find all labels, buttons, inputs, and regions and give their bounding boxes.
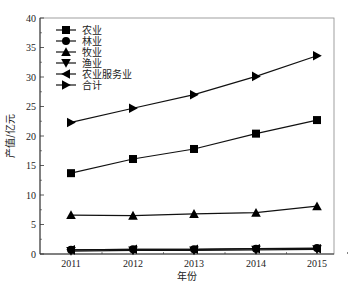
axes: 051015202530354020112012201320142015 (26, 13, 348, 270)
square-marker-icon (252, 130, 260, 138)
circle-marker-icon (62, 37, 70, 45)
series-triangle-right (67, 51, 322, 127)
y-tick-label: 5 (31, 219, 36, 230)
legend-item: 农业 (56, 24, 102, 36)
y-tick-label: 30 (26, 72, 36, 83)
x-tick-label: 2013 (184, 258, 204, 269)
y-tick-label: 20 (26, 131, 36, 142)
x-tick-label: 2015 (307, 258, 327, 269)
x-tick-label: 2012 (123, 258, 143, 269)
legend-label: 牧业 (82, 46, 102, 58)
legend-item: 农业服务业 (56, 68, 132, 80)
legend-label: 农业服务业 (82, 68, 132, 80)
triangle-left-marker-icon (61, 69, 70, 79)
square-marker-icon (62, 26, 70, 34)
square-marker-icon (313, 116, 321, 124)
triangle-right-marker-icon (313, 51, 322, 61)
y-tick-label: 0 (31, 249, 36, 260)
legend-label: 林业 (82, 35, 102, 47)
line-chart: 051015202530354020112012201320142015 农业林… (0, 0, 361, 291)
x-tick-label: 2011 (61, 258, 81, 269)
y-axis-title: 产值/亿元 (4, 114, 16, 157)
legend-item: 渔业 (56, 58, 102, 69)
series-group (66, 51, 322, 256)
y-tick-label: 25 (26, 101, 36, 112)
triangle-right-marker-icon (129, 103, 138, 113)
y-tick-label: 40 (26, 13, 36, 24)
legend-label: 渔业 (82, 58, 102, 69)
y-tick-label: 15 (26, 160, 36, 171)
y-tick-label: 10 (26, 190, 36, 201)
legend-item: 合计 (56, 79, 102, 91)
series-line (71, 56, 317, 123)
legend-label: 农业 (82, 24, 102, 36)
triangle-right-marker-icon (252, 72, 261, 82)
triangle-right-marker-icon (67, 118, 76, 128)
legend-label: 合计 (82, 79, 102, 91)
x-axis-title: 年份 (177, 270, 197, 282)
x-tick-label: 2014 (246, 258, 266, 269)
triangle-up-marker-icon (312, 201, 322, 210)
y-tick-label: 35 (26, 42, 36, 53)
series-square (67, 116, 321, 177)
legend: 农业林业牧业渔业农业服务业合计 (56, 24, 132, 91)
square-marker-icon (190, 145, 198, 153)
square-marker-icon (67, 169, 75, 177)
triangle-right-marker-icon (190, 90, 199, 100)
triangle-right-marker-icon (62, 80, 71, 90)
square-marker-icon (129, 155, 137, 163)
legend-item: 林业 (56, 35, 102, 47)
legend-item: 牧业 (56, 46, 102, 58)
series-triangle-up (66, 201, 322, 219)
